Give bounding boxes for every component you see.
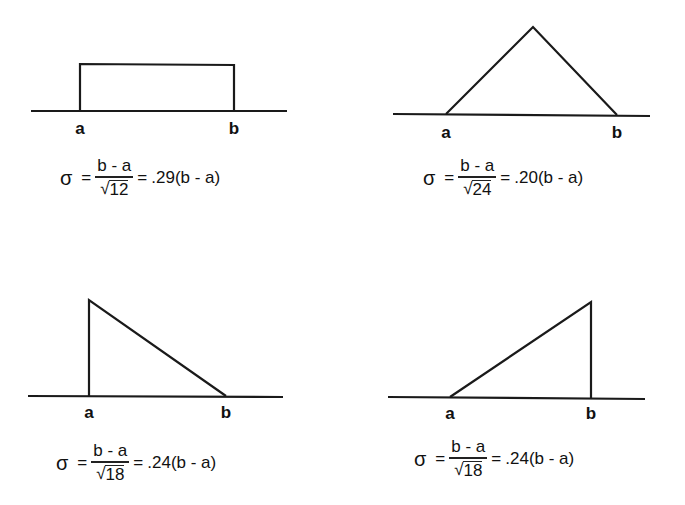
equals-sign: =	[444, 169, 454, 186]
radicand: 12	[109, 180, 129, 198]
result: .20(b - a)	[514, 169, 583, 186]
baseline-axis	[388, 397, 645, 399]
radicand: 18	[463, 461, 483, 479]
sigma-formula-right-triangle-right: σ = b - a √ 18 = .24(b - a)	[414, 438, 574, 479]
triangle-outline	[89, 300, 226, 396]
numerator: b - a	[91, 442, 129, 463]
right-triangle-right-shape	[388, 302, 645, 399]
numerator: b - a	[449, 438, 487, 459]
result: .24(b - a)	[505, 450, 574, 467]
radicand: 18	[105, 465, 125, 483]
sigma-formula-triangular: σ = b - a √ 24 = .20(b - a)	[423, 157, 583, 198]
triangle-outline	[446, 27, 617, 115]
numerator: b - a	[95, 157, 133, 178]
sigma-symbol: σ	[56, 453, 68, 473]
rectangle-outline	[80, 64, 234, 111]
right-triangle-left-shape	[28, 300, 283, 397]
sigma-symbol: σ	[423, 168, 435, 188]
denominator: √ 18	[454, 459, 482, 479]
denominator: √ 24	[463, 178, 491, 198]
distribution-diagrams	[0, 0, 685, 505]
denominator: √ 18	[96, 463, 124, 483]
triangular-distribution-shape	[393, 27, 650, 116]
label-a: a	[441, 124, 450, 141]
label-b: b	[229, 120, 239, 137]
result: .29(b - a)	[151, 169, 220, 186]
label-a: a	[445, 405, 454, 422]
equals-sign: =	[500, 169, 510, 186]
fraction: b - a √ 18	[449, 438, 487, 479]
denominator: √ 12	[100, 178, 128, 198]
label-a: a	[84, 404, 93, 421]
sigma-formula-uniform: σ = b - a √ 12 = .29(b - a)	[60, 157, 220, 198]
fraction: b - a √ 24	[458, 157, 496, 198]
radicand: 24	[472, 180, 492, 198]
baseline-axis	[28, 396, 283, 397]
sigma-formula-right-triangle-left: σ = b - a √ 18 = .24(b - a)	[56, 442, 216, 483]
fraction: b - a √ 18	[91, 442, 129, 483]
label-b: b	[586, 405, 596, 422]
triangle-outline	[450, 302, 591, 398]
equals-sign: =	[137, 169, 147, 186]
sigma-symbol: σ	[60, 168, 72, 188]
label-a: a	[75, 120, 84, 137]
equals-sign: =	[435, 450, 445, 467]
fraction: b - a √ 12	[95, 157, 133, 198]
numerator: b - a	[458, 157, 496, 178]
equals-sign: =	[133, 454, 143, 471]
baseline-axis	[393, 114, 650, 116]
equals-sign: =	[491, 450, 501, 467]
result: .24(b - a)	[147, 454, 216, 471]
label-b: b	[221, 404, 231, 421]
uniform-distribution-shape	[31, 64, 287, 111]
equals-sign: =	[77, 454, 87, 471]
label-b: b	[612, 124, 622, 141]
sigma-symbol: σ	[414, 449, 426, 469]
equals-sign: =	[81, 169, 91, 186]
